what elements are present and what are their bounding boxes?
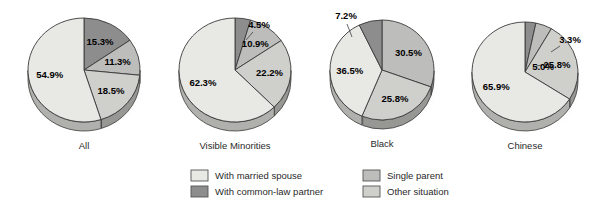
legend-item-with-married-spouse[interactable]: With married spouse	[191, 170, 302, 181]
legend-label: With common-law partner	[215, 186, 323, 197]
pie-category-label-all: All	[79, 140, 90, 151]
pie-category-label-chinese: Chinese	[508, 140, 543, 151]
pie-category-label-visible-minorities: Visible Minorities	[199, 140, 270, 151]
pie-slice-label: 65.9%	[483, 81, 510, 92]
pie-charts-svg: 15.3%11.3%18.5%54.9%All4.5%10.9%22.2%62.…	[0, 0, 599, 213]
chart-legend: With married spouseWith common-law partn…	[191, 170, 449, 197]
pie-slice-label: 15.3%	[87, 36, 114, 47]
pie-slice-label: 54.9%	[36, 69, 63, 80]
pie-slice-label: 7.2%	[335, 10, 357, 21]
pie-chart-chinese: 3.3%5.0%25.8%65.9%Chinese	[472, 22, 585, 151]
pie-chart-visible-minorities: 4.5%10.9%22.2%62.3%Visible Minorities	[179, 18, 298, 151]
legend-label: With married spouse	[215, 170, 302, 181]
legend-swatch	[191, 170, 208, 181]
legend-label: Other situation	[387, 186, 449, 197]
pie-slice-label: 10.9%	[242, 38, 269, 49]
pie-slice-label: 62.3%	[189, 77, 216, 88]
pie-slice-label: 25.8%	[382, 93, 409, 104]
pies-layer: 15.3%11.3%18.5%54.9%All4.5%10.9%22.2%62.…	[28, 10, 585, 151]
legend-swatch	[363, 170, 380, 181]
pie-category-label-black: Black	[370, 138, 393, 149]
pie-chart-figure: 15.3%11.3%18.5%54.9%All4.5%10.9%22.2%62.…	[0, 0, 599, 213]
pie-slice-label: 11.3%	[104, 56, 131, 67]
legend-swatch	[191, 186, 208, 197]
legend-label: Single parent	[387, 170, 443, 181]
pie-slice-label: 25.8%	[543, 59, 570, 70]
pie-chart-all: 15.3%11.3%18.5%54.9%All	[28, 18, 147, 151]
pie-slice-label: 4.5%	[248, 19, 270, 30]
pie-slice-label: 36.5%	[336, 65, 363, 76]
legend-item-other-situation[interactable]: Other situation	[363, 186, 449, 197]
pie-slice-label: 30.5%	[395, 47, 422, 58]
pie-slice-label: 22.2%	[256, 67, 283, 78]
pie-slice-label: 18.5%	[97, 85, 124, 96]
legend-item-single-parent[interactable]: Single parent	[363, 170, 443, 181]
pie-chart-black: 30.5%25.8%36.5%7.2%Black	[330, 10, 441, 149]
pie-slice-label: 3.3%	[559, 34, 581, 45]
legend-item-with-common-law-partner[interactable]: With common-law partner	[191, 186, 323, 197]
legend-swatch	[363, 186, 380, 197]
